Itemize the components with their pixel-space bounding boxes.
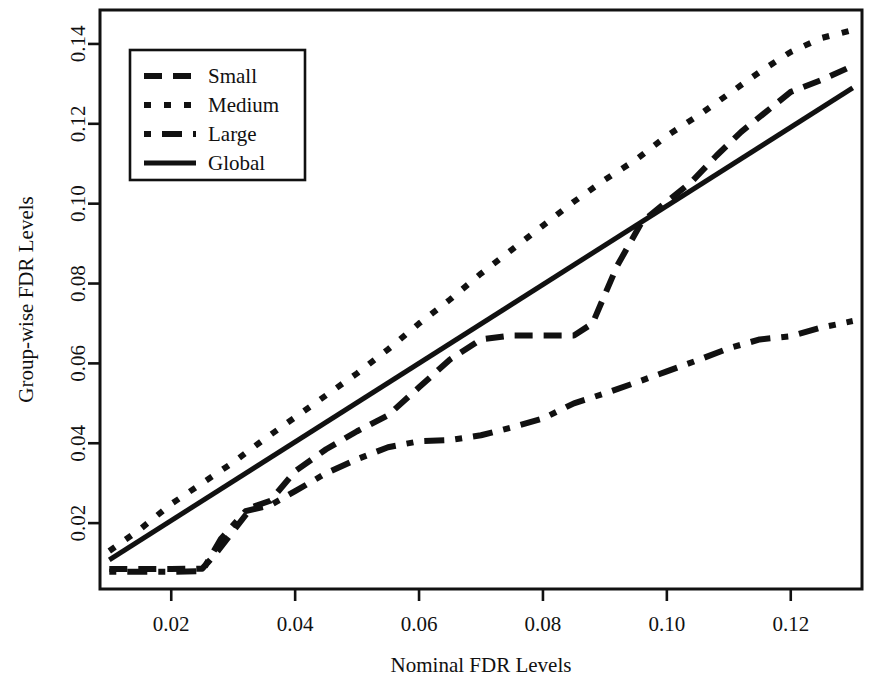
legend-label-small: Small xyxy=(208,64,257,88)
x-tick-label: 0.04 xyxy=(277,612,314,636)
y-axis-title: Group-wise FDR Levels xyxy=(14,196,38,402)
x-tick-label: 0.08 xyxy=(525,612,562,636)
y-tick-label: 0.02 xyxy=(66,505,90,542)
y-tick-label: 0.06 xyxy=(66,345,90,382)
x-axis-title: Nominal FDR Levels xyxy=(391,653,572,677)
x-tick-label: 0.02 xyxy=(153,612,190,636)
x-tick-label: 0.06 xyxy=(401,612,438,636)
legend-label-large: Large xyxy=(208,122,257,146)
y-tick-label: 0.14 xyxy=(66,25,90,62)
fdr-line-chart: 0.020.040.060.080.100.120.020.040.060.08… xyxy=(0,0,872,691)
legend-label-global: Global xyxy=(208,151,265,175)
legend-label-medium: Medium xyxy=(208,93,279,117)
x-tick-label: 0.10 xyxy=(648,612,685,636)
y-tick-label: 0.08 xyxy=(66,265,90,302)
y-tick-label: 0.04 xyxy=(66,424,90,461)
chart-figure: 0.020.040.060.080.100.120.020.040.060.08… xyxy=(0,0,872,691)
y-tick-label: 0.10 xyxy=(66,185,90,222)
x-tick-label: 0.12 xyxy=(772,612,809,636)
series-line-large xyxy=(109,321,852,572)
y-tick-label: 0.12 xyxy=(66,105,90,142)
